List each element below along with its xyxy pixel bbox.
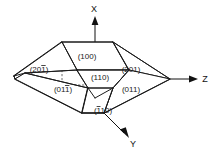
face-label-201: (201) xyxy=(122,65,141,74)
face-label-011-bar: (011) xyxy=(54,85,72,94)
crystal-diagram: (100) (201) (201) (110) (011) (011) (110… xyxy=(0,0,218,151)
y-axis xyxy=(104,113,129,138)
face-label-110-upper: (110) xyxy=(91,73,109,82)
y-axis-arrow-icon xyxy=(120,127,129,138)
x-axis-arrow-icon xyxy=(92,16,99,25)
face-label-100: (100) xyxy=(78,52,97,61)
z-axis-label: Z xyxy=(202,74,208,84)
y-axis-label: Y xyxy=(130,139,136,149)
z-axis xyxy=(168,76,198,83)
x-axis-label: X xyxy=(91,4,97,14)
z-axis-arrow-icon xyxy=(189,76,198,83)
face-label-110-lower: (110) xyxy=(94,106,112,115)
face-label-011: (011) xyxy=(122,85,140,94)
face-label-201-bar: (201) xyxy=(30,65,49,74)
